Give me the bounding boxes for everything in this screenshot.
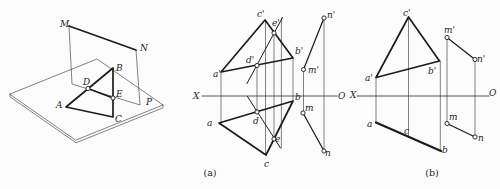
label-n: n' — [327, 10, 335, 20]
two-view-diagram-b: XOa'c'b'm'n'acbmn — [349, 8, 497, 155]
point-marker-m-front — [445, 35, 449, 39]
label-O: O — [338, 91, 346, 101]
label-n: n — [478, 133, 484, 143]
label-A: A — [55, 100, 63, 110]
label-a: a — [367, 119, 372, 129]
intersection-DE — [88, 89, 113, 99]
point-marker-m-front — [301, 67, 305, 71]
label-O: O — [489, 88, 497, 98]
label-a: a' — [213, 69, 221, 79]
label-n: n — [325, 148, 331, 158]
point-marker-D — [86, 86, 90, 90]
label-C: C — [115, 114, 122, 124]
label-c: c — [264, 159, 269, 169]
point-marker-m-plan — [445, 121, 449, 125]
label-b: b — [295, 92, 301, 102]
label-N: N — [139, 43, 149, 53]
geometry-figure: MNABCDEP XOa'c'b'd'e'm'n'abcdemn XOa'c'b… — [0, 0, 500, 189]
line-mn-front-a — [304, 18, 325, 70]
point-marker-E — [111, 96, 115, 100]
label-b: b' — [428, 66, 436, 76]
label-a: a' — [365, 73, 373, 83]
caption-a: (a) — [193, 167, 227, 178]
line-mn-plan-a — [303, 113, 324, 151]
label-m: m — [449, 112, 458, 122]
label-e: e' — [272, 18, 280, 28]
triangle-ABC — [66, 68, 113, 117]
label-b: b — [442, 145, 448, 155]
label-M: M — [59, 19, 70, 29]
point-marker-d-plan — [255, 110, 259, 114]
label-X: X — [192, 91, 200, 101]
plane-p-top-face — [10, 59, 163, 140]
label-a: a — [207, 118, 212, 128]
label-c: c — [404, 126, 409, 136]
label-d: d' — [246, 55, 254, 65]
point-marker-n-front — [322, 16, 326, 20]
label-d: d — [253, 116, 259, 126]
label-m: m' — [444, 25, 455, 35]
projection-lines-a — [221, 18, 324, 154]
label-e: e — [275, 134, 280, 144]
label-b: b' — [295, 46, 303, 56]
line-mn-plan-b — [447, 124, 475, 138]
point-marker-e-front — [272, 31, 276, 35]
label-m: m — [305, 103, 314, 113]
point-marker-d-front — [255, 63, 259, 67]
label-n: n' — [477, 54, 485, 64]
figure-root: MNABCDEP XOa'c'b'd'e'm'n'abcdemn XOa'c'b… — [0, 0, 500, 189]
caption-b: (b) — [415, 167, 449, 178]
label-c: c' — [257, 9, 265, 19]
label-B: B — [115, 63, 123, 73]
pictorial-view: MNABCDEP — [10, 19, 163, 143]
label-E: E — [115, 89, 123, 99]
label-P: P — [145, 97, 153, 107]
label-X: X — [349, 90, 357, 100]
line-mn-front-b — [447, 38, 475, 60]
point-marker-n-plan — [473, 135, 477, 139]
line-MN — [69, 26, 136, 50]
diagram-a-annotations: XOa'c'b'd'e'm'n'abcdemn — [192, 9, 346, 169]
two-view-diagram-a: XOa'c'b'd'e'm'n'abcdemn — [192, 9, 346, 169]
label-c: c' — [403, 8, 411, 18]
label-m: m' — [308, 65, 319, 75]
label-D: D — [82, 77, 90, 87]
